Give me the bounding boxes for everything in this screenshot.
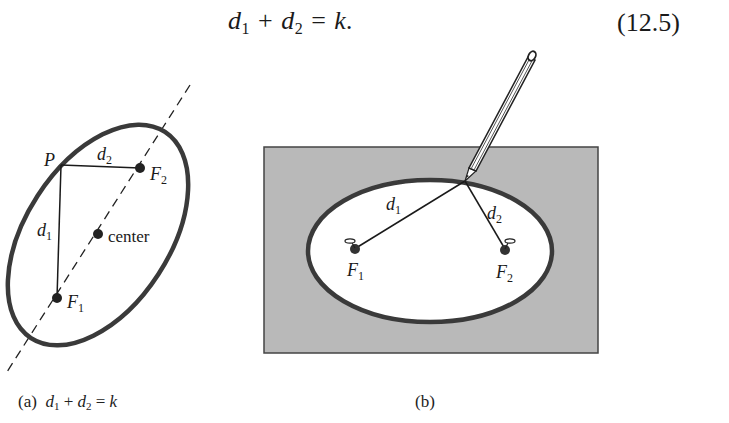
segment-d2-a bbox=[61, 165, 140, 168]
ellipse-b bbox=[308, 180, 552, 322]
focus-f2-dot bbox=[135, 163, 145, 173]
caption-a-rhs: k bbox=[110, 392, 118, 411]
label-d1-a: d1 bbox=[37, 220, 52, 243]
caption-a: (a) d1 + d2 = k bbox=[18, 392, 117, 412]
figure-b: d1 d2 F1 F2 bbox=[264, 50, 598, 353]
label-p: P bbox=[43, 150, 55, 170]
caption-a-d2-sub: 2 bbox=[86, 400, 92, 412]
label-f2-a: F2 bbox=[149, 164, 167, 187]
caption-a-d1-sub: 1 bbox=[54, 400, 60, 412]
caption-a-equals: = bbox=[96, 392, 106, 411]
caption-a-prefix: (a) bbox=[18, 392, 37, 411]
caption-a-d2: d bbox=[77, 392, 86, 411]
label-d2-a: d2 bbox=[97, 144, 112, 167]
center-dot bbox=[93, 229, 103, 239]
label-center: center bbox=[108, 227, 150, 246]
caption-a-d1: d bbox=[45, 392, 54, 411]
segment-d1-a bbox=[57, 165, 61, 298]
caption-b: (b) bbox=[415, 392, 435, 412]
ellipse-figures: P d2 F2 d1 center F1 bbox=[0, 0, 729, 423]
focus-f1-dot bbox=[52, 293, 62, 303]
caption-a-plus: + bbox=[64, 392, 74, 411]
label-f1-a: F1 bbox=[66, 292, 84, 315]
figure-a: P d2 F2 d1 center F1 bbox=[0, 85, 225, 377]
